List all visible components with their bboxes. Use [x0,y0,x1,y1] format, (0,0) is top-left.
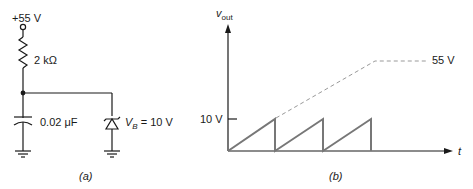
supply-voltage-label: +55 V [12,13,41,24]
tick-10v-label: 10 V [200,114,223,125]
resistor-icon [19,37,27,68]
figure-a-caption: (a) [79,171,92,182]
circuit-schematic [0,0,473,189]
y-axis-arrow-icon [225,24,231,33]
x-axis-arrow-icon [444,148,453,154]
zener-diode-icon [104,117,120,129]
ground-icon-zener [104,151,120,157]
resistor-value-label: 2 kΩ [34,55,57,66]
junction-dot [21,91,26,96]
supply-terminal-icon [20,24,25,29]
y-axis-label: vout [216,8,233,19]
ground-icon-capacitor [15,151,31,157]
waveform-graph [225,24,453,154]
asymptote-label: 55 V [432,55,455,66]
zener-voltage-label: VB = 10 V [125,117,173,128]
figure-b-caption: (b) [329,171,342,182]
sawtooth-waveform [228,119,371,151]
x-axis-label: t [458,146,461,157]
capacitor-value-label: 0.02 μF [40,117,78,128]
dashed-charging-curve [276,61,428,118]
